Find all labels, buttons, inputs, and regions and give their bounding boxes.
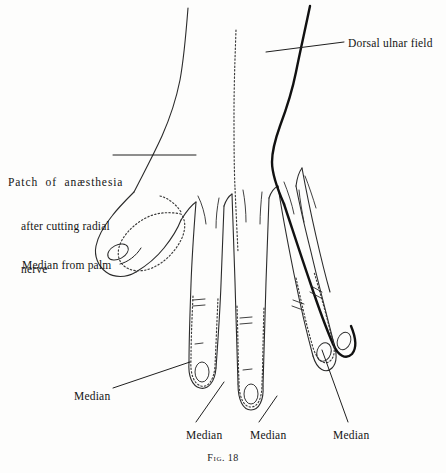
nail-index [195, 362, 209, 382]
label-median-middle: Median [250, 428, 286, 443]
middle-ulnar-edge [263, 198, 269, 386]
label-dorsal-ulnar-field: Dorsal ulnar field [348, 36, 433, 51]
crease-middle-pip-b [240, 323, 252, 324]
crease-middle-mcp-a [243, 190, 246, 222]
ulnar-wrist-border [272, 6, 310, 204]
leader-line-group [113, 42, 348, 422]
dorsal-midline-boundary [234, 30, 236, 188]
index-ulnar-edge [216, 206, 224, 368]
crease-middle-dip [243, 369, 252, 370]
thumb-radial-patch-boundary [118, 213, 185, 271]
little-fingertip-heavy [333, 326, 355, 357]
web-ring-little [296, 168, 302, 186]
label-patch-line2: after cutting radial [8, 219, 128, 234]
crease-middle-pip-a [240, 317, 252, 318]
crease-index-pip-b [193, 305, 205, 306]
crease-ring-pip-a [293, 300, 304, 304]
nail-little [335, 330, 354, 352]
figure-caption: Fig. 18 [0, 452, 446, 463]
thumb-web-boundary [160, 196, 181, 212]
fingernail-group [105, 241, 353, 404]
label-median-thumb: Median [74, 389, 110, 404]
caption-prefix: Fig. [207, 452, 225, 463]
leader-median-ring [322, 350, 348, 422]
label-median-from-palm: Median from palm [22, 258, 111, 273]
crease-index-dip [195, 343, 203, 344]
middle-median-boundary [237, 306, 264, 407]
anatomical-figure: Patch of anæsthesia after cutting radial… [0, 0, 446, 473]
leader-median-thumb [113, 362, 190, 388]
label-patch-of-anaesthesia: Patch of anæsthesia after cutting radial… [8, 146, 128, 306]
nerve-field-boundary-group [118, 30, 334, 407]
index-fingertip [189, 362, 216, 388]
label-patch-line1: Patch of anæsthesia [8, 175, 128, 190]
index-radial-edge [189, 202, 196, 362]
crease-index-mcp-a [198, 196, 206, 224]
ulnar-heavy-border-group [272, 6, 355, 357]
crease-index-pip-a [193, 299, 205, 300]
crease-index-mcp-b [216, 198, 219, 228]
skin-crease-group [193, 176, 322, 370]
leader-dorsal-ulnar [266, 42, 344, 52]
caption-number: 18 [228, 452, 239, 463]
label-median-index: Median [186, 428, 222, 443]
middle-radial-edge [232, 194, 238, 384]
radial-wrist-border [134, 8, 188, 192]
nail-middle [244, 384, 258, 404]
web-index-middle [224, 194, 232, 206]
label-median-ring: Median [333, 428, 369, 443]
dorsal-midline-lower [235, 188, 238, 252]
crease-middle-mcp-b [260, 192, 262, 224]
middle-fingertip [238, 384, 263, 410]
